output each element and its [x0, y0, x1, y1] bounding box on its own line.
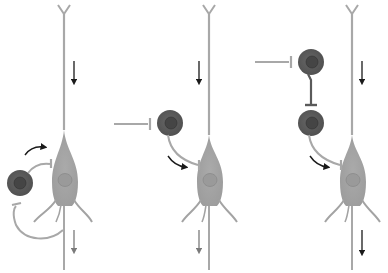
- panel-feedforward-inhibition: [114, 5, 237, 270]
- panel-disinhibition: [255, 5, 380, 270]
- curved-arrow-icon: [25, 147, 44, 155]
- interneuron: [157, 110, 199, 170]
- interneuron: [7, 159, 51, 196]
- neural-circuit-diagram: [0, 0, 388, 273]
- principal-neuron: [325, 5, 380, 270]
- nucleus-icon: [306, 117, 318, 129]
- nucleus-icon: [14, 177, 26, 189]
- interneuron-upper: [298, 49, 324, 105]
- nucleus-icon: [58, 174, 72, 187]
- synapse-terminal: [12, 203, 21, 205]
- nucleus-icon: [203, 174, 217, 187]
- principal-neuron: [182, 5, 237, 270]
- interneuron-lower: [298, 110, 341, 170]
- nucleus-icon: [165, 117, 177, 129]
- nucleus-icon: [346, 174, 360, 187]
- panel-feedback-inhibition: [7, 5, 92, 270]
- axon-collateral: [14, 206, 63, 238]
- nucleus-icon: [306, 56, 318, 68]
